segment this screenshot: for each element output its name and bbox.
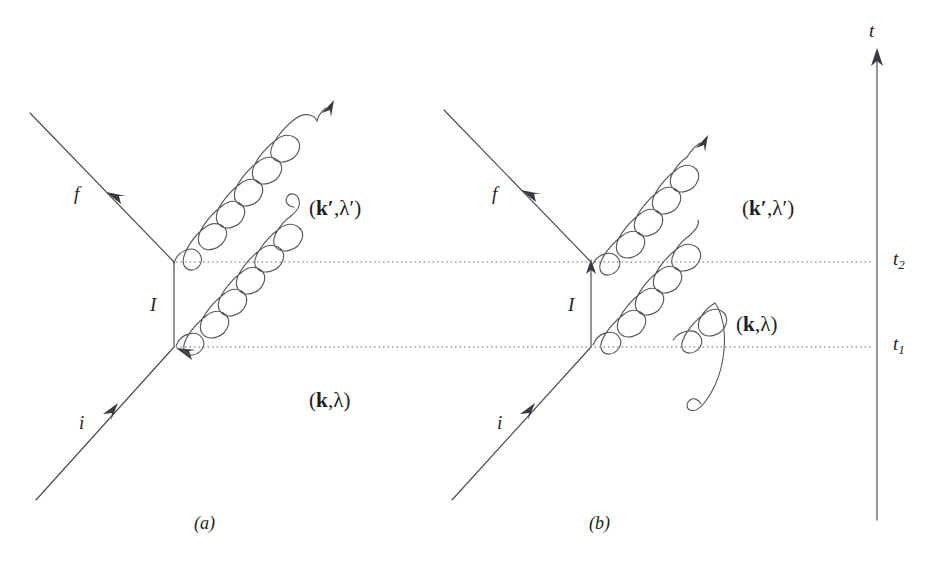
fermion-out-line-a — [30, 113, 174, 262]
caption-a: (a) — [194, 513, 215, 534]
paren-close: ) — [354, 196, 361, 220]
k-bold: k — [743, 312, 755, 336]
photon-in-label-a: (k,λ) — [309, 388, 351, 413]
k-bold: k — [316, 388, 328, 412]
photon-out-label-a: (k′,λ′) — [309, 196, 361, 221]
paren-close: ) — [771, 312, 778, 336]
internal-line-label-b: I — [568, 294, 574, 316]
figure-canvas: t t2 t1 f i I (k′,λ′) (k,λ) (a) f i I (k… — [0, 0, 933, 566]
photon-in-tail-a — [286, 194, 299, 216]
diagram-b-group — [444, 110, 727, 500]
fermion-out-label-a: f — [74, 183, 79, 205]
fermion-in-line-b — [452, 347, 591, 500]
tick-label-t1: t1 — [893, 333, 905, 358]
photon-out-arrow-a — [322, 100, 334, 117]
photon-in-label-b: (k,λ) — [736, 312, 778, 337]
fermion-in-line-a — [36, 347, 174, 500]
caption-b: (b) — [589, 513, 610, 534]
fermion-out-label-b: f — [492, 183, 497, 205]
paren-close: ) — [344, 388, 351, 412]
tick-label-t2-sub: 2 — [898, 257, 905, 272]
lambda: λ — [333, 388, 343, 412]
time-axis-label: t — [869, 20, 874, 42]
lambda-prime: λ′ — [339, 196, 354, 220]
internal-line-label-a: I — [150, 294, 156, 316]
internal-line-arrow-a — [176, 348, 196, 360]
k-prime-bold: k′ — [749, 196, 767, 220]
fermion-in-label-a: i — [79, 412, 84, 434]
photon-out-arrow-stem-a — [317, 108, 326, 121]
k-prime-bold: k′ — [316, 196, 334, 220]
photon-in-arrow-b — [696, 135, 708, 152]
tick-label-t1-sub: 1 — [898, 342, 905, 357]
lambda-prime: λ′ — [772, 196, 787, 220]
photon-out-tail-curl-b — [687, 303, 725, 411]
photon-in-coil-b — [593, 157, 699, 275]
fermion-in-label-b: i — [497, 412, 502, 434]
diagram-a-group — [30, 100, 334, 500]
photon-in-tail-b — [687, 143, 700, 157]
lambda: λ — [760, 312, 770, 336]
photon-out-coil-a — [174, 115, 317, 270]
photon-out-extra-b — [689, 220, 698, 236]
fermion-out-line-b — [444, 110, 591, 262]
feynman-diagram-svg — [0, 0, 933, 566]
photon-out-label-b: (k′,λ′) — [742, 196, 794, 221]
tick-label-t2: t2 — [893, 248, 905, 273]
paren-close: ) — [787, 196, 794, 220]
